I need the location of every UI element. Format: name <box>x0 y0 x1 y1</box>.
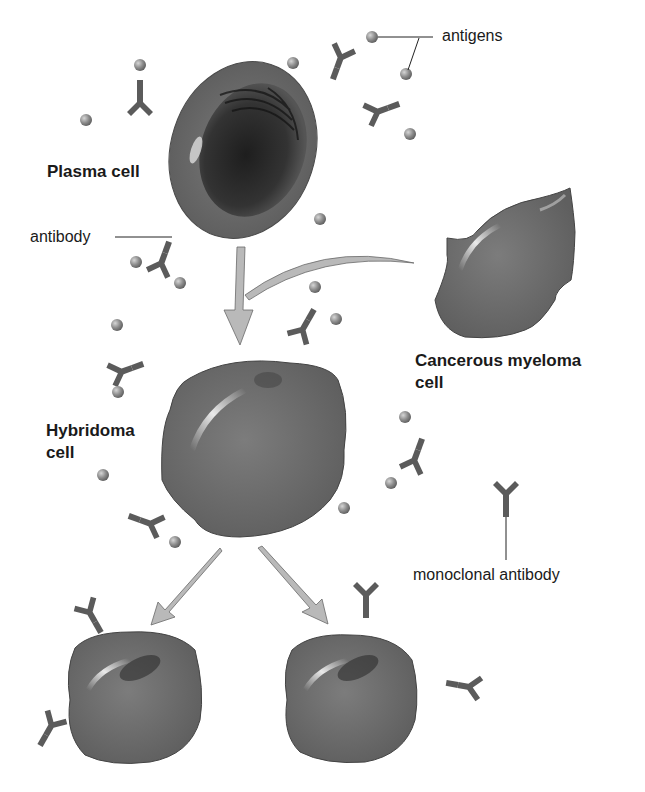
label-myeloma-line2: cell <box>415 373 443 392</box>
myeloma-cell <box>435 188 575 338</box>
arrow-hybridoma-to-left <box>151 548 222 625</box>
label-plasma-cell: Plasma cell <box>47 162 140 181</box>
label-hybridoma-line1: Hybridoma <box>46 421 135 440</box>
hybridoma-cell <box>162 361 346 537</box>
label-hybridoma-line2: cell <box>46 443 74 462</box>
daughter-cell-right <box>285 635 417 763</box>
arrow-myeloma-to-hybridoma <box>245 256 414 300</box>
plasma-cell <box>147 42 340 258</box>
label-antigens: antigens <box>442 27 503 45</box>
arrow-hybridoma-to-right <box>258 546 328 624</box>
label-antibody: antibody <box>30 228 91 246</box>
daughter-cell-left <box>68 632 201 764</box>
label-myeloma-line1: Cancerous myeloma <box>415 351 581 370</box>
diagram-canvas <box>0 0 645 792</box>
label-monoclonal-antibody: monoclonal antibody <box>413 566 560 584</box>
